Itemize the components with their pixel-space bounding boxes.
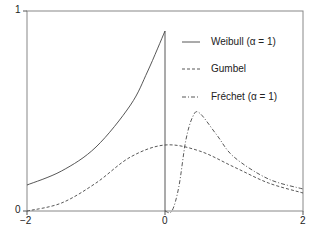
- legend-label-gumbel: Gumbel: [211, 63, 246, 74]
- y-tick-label-0: 0: [15, 204, 21, 215]
- x-tick-label-neg2: −2: [20, 215, 31, 226]
- x-tick-label-0: 0: [162, 215, 168, 226]
- legend-swatches: [182, 42, 200, 97]
- y-tick-label-1: 1: [15, 4, 21, 15]
- legend-label-frechet: Fréchet (α = 1): [211, 91, 277, 102]
- series-layer: [27, 31, 303, 213]
- series-line-weibull: [27, 31, 165, 211]
- series-line-frechet: [165, 112, 303, 213]
- x-tick-label-2: 2: [300, 215, 306, 226]
- legend-label-weibull: Weibull (α = 1): [211, 36, 276, 47]
